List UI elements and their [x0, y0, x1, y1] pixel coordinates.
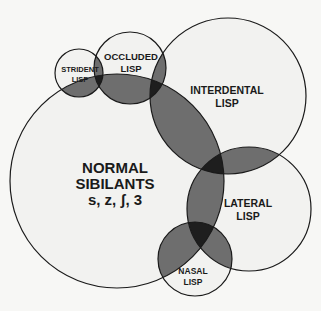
- label-interdental-line1: INTERDENTAL: [190, 84, 264, 96]
- label-lateral-line2: LISP: [236, 210, 259, 222]
- label-normal-line2: SIBILANTS: [75, 175, 154, 192]
- label-normal-line3: s, z, ʃ, 3: [88, 191, 142, 208]
- label-strident-line1: STRIDENT: [61, 65, 99, 74]
- label-nasal-line2: LISP: [184, 277, 203, 287]
- label-interdental-line2: LISP: [215, 97, 238, 109]
- label-nasal-line1: NASAL: [178, 266, 207, 276]
- label-lateral-line1: LATERAL: [224, 197, 273, 209]
- sibilant-venn-diagram: NORMAL SIBILANTS s, z, ʃ, 3 STRIDENT LIS…: [0, 0, 321, 311]
- label-strident-line2: LISP: [72, 75, 89, 84]
- label-occluded-line1: OCCLUDED: [104, 51, 158, 62]
- label-normal-line1: NORMAL: [82, 159, 148, 176]
- label-occluded-line2: LISP: [120, 63, 142, 74]
